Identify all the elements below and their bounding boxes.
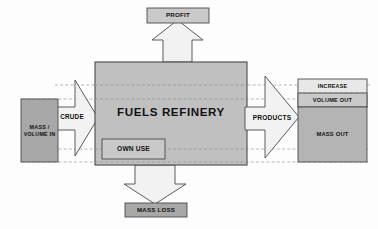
products-arrow (245, 76, 299, 158)
mass-loss-box (125, 203, 187, 217)
own-use-box (102, 139, 165, 159)
crude-arrow (56, 80, 98, 156)
profit-box (147, 8, 209, 23)
profit-arrow (152, 20, 203, 62)
mass-out-box (298, 107, 367, 162)
diagram-canvas: PROFIT MASS / VOLUME IN CRUDE FUELS REFI… (0, 0, 378, 229)
diagram-vector-layer (0, 0, 378, 229)
mass-volume-in-box (21, 99, 58, 162)
mass-loss-arrow (124, 165, 186, 204)
volume-out-band (298, 93, 367, 107)
